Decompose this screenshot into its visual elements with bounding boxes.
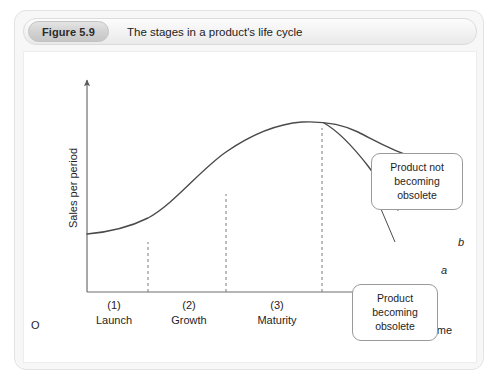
origin-label: O <box>31 319 40 331</box>
callout-bottom-line3: obsolete <box>353 319 437 333</box>
stage-label-launch: (1) Launch <box>74 298 154 328</box>
figure-screenshot: Figure 5.9 The stages in a product's lif… <box>0 0 498 386</box>
curve-label-a: a <box>441 264 447 276</box>
figure-number-badge: Figure 5.9 <box>28 21 109 42</box>
callout-bottom-line2: becoming <box>353 305 437 319</box>
figure-card: Figure 5.9 The stages in a product's lif… <box>14 10 484 370</box>
figure-title: The stages in a product's life cycle <box>127 26 302 38</box>
figure-header: Figure 5.9 The stages in a product's lif… <box>23 18 477 45</box>
callout-bottom-line1: Product <box>353 291 437 305</box>
curve-b-not-obsolete <box>87 122 416 234</box>
callout-product-not-becoming-obsolete: Product not becoming obsolete <box>371 153 463 210</box>
callout-top-line1: Product not <box>372 160 462 174</box>
plot-panel: Sales per period O Time (1) Launch (2) G… <box>23 51 477 363</box>
callout-top-line3: obsolete <box>372 188 462 202</box>
callout-product-becoming-obsolete: Product becoming obsolete <box>352 284 438 341</box>
stage-label-growth: (2) Growth <box>149 298 229 328</box>
stage-label-maturity: (3) Maturity <box>237 298 317 328</box>
callout-top-line2: becoming <box>372 174 462 188</box>
y-axis-label: Sales per period <box>67 123 79 253</box>
curve-label-b: b <box>458 236 464 248</box>
